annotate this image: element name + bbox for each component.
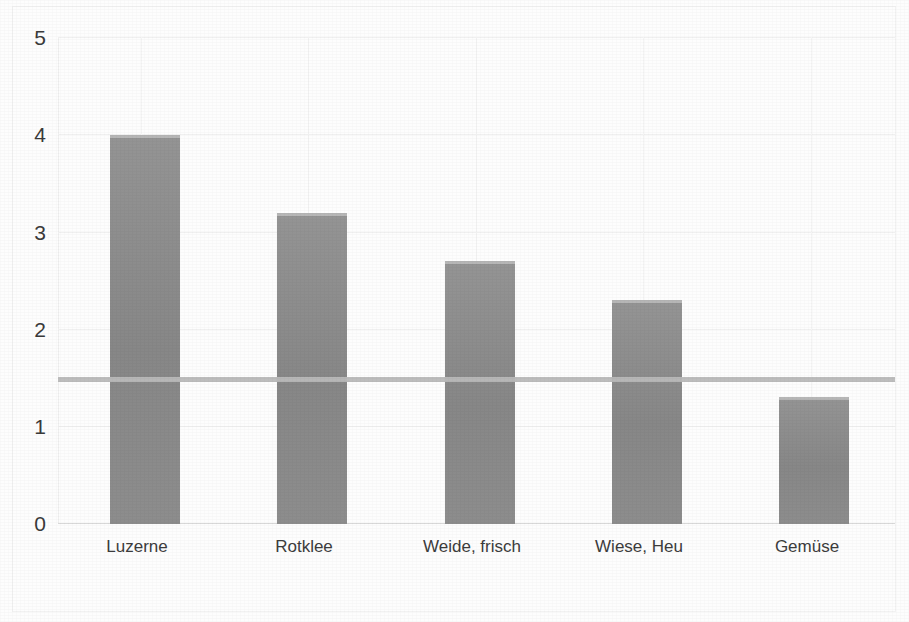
bar-top-highlight	[612, 300, 682, 303]
bar-gemuese	[779, 397, 849, 524]
x-tick-gemuese: Gemüse	[725, 538, 889, 555]
y-tick-0: 0	[12, 513, 46, 534]
y-tick-1: 1	[12, 416, 46, 437]
bar-luzerne	[110, 135, 180, 524]
x-tick-rotklee: Rotklee	[222, 538, 386, 555]
x-tick-luzerne: Luzerne	[55, 538, 219, 555]
y-tick-2: 2	[12, 319, 46, 340]
bar-top-highlight	[110, 135, 180, 138]
chart-screenshot: 5 4 3 2 1 0 Luzerne Rotklee Weide, frisc…	[0, 0, 909, 622]
x-tick-wiese-heu: Wiese, Heu	[557, 538, 721, 555]
bar-top-highlight	[779, 397, 849, 400]
plot-area	[58, 37, 895, 524]
bar-weide-frisch	[445, 261, 515, 524]
y-tick-3: 3	[12, 222, 46, 243]
y-tick-4: 4	[12, 124, 46, 145]
y-axis-tick-labels: 5 4 3 2 1 0	[0, 0, 46, 622]
reference-line-1-5	[58, 377, 895, 382]
x-tick-weide-frisch: Weide, frisch	[390, 538, 554, 555]
bar-rotklee	[277, 213, 347, 524]
bar-chart-figure: 5 4 3 2 1 0 Luzerne Rotklee Weide, frisc…	[0, 0, 909, 622]
y-tick-5: 5	[12, 27, 46, 48]
bar-top-highlight	[445, 261, 515, 264]
bar-top-highlight	[277, 213, 347, 216]
bar-wiese-heu	[612, 300, 682, 524]
